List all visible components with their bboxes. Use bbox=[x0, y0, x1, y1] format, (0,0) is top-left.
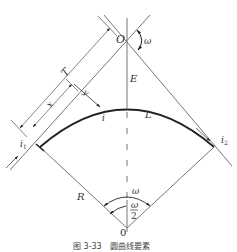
label-intersection-o: O bbox=[116, 33, 125, 46]
label-half-angle-num: ω bbox=[131, 200, 139, 210]
direction-arrow-start bbox=[6, 156, 18, 168]
label-point-i: i bbox=[102, 113, 105, 123]
radius-left bbox=[40, 147, 127, 228]
label-radius-r: R bbox=[76, 191, 85, 202]
label-curve-length-l: L bbox=[144, 109, 152, 120]
tangent-line-left bbox=[10, 15, 150, 170]
label-y: y bbox=[80, 87, 90, 98]
half-angle-arc bbox=[110, 206, 126, 214]
label-start-i1: i1 bbox=[20, 139, 27, 150]
label-center-angle-omega: ω bbox=[132, 186, 140, 196]
tangent-length-dim-line bbox=[20, 28, 110, 128]
figure-caption: 图 3-33 圆曲线要素 bbox=[73, 241, 150, 251]
deflection-angle-arc bbox=[137, 30, 142, 50]
label-half-angle-den: 2 bbox=[131, 211, 137, 221]
label-deflection-omega: ω bbox=[144, 36, 152, 46]
label-end-i2: i2 bbox=[221, 135, 228, 146]
circular-curve-diagram: O ω E L i i1 i2 R ω ω 2 0 T x y 图 3-33 圆… bbox=[0, 0, 237, 252]
label-x: x bbox=[44, 99, 55, 109]
label-center-0: 0 bbox=[120, 227, 126, 238]
radius-right bbox=[127, 147, 214, 228]
label-external-e: E bbox=[129, 73, 138, 84]
